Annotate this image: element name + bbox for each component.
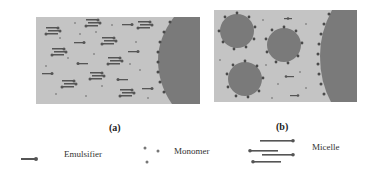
legend-emulsifier-label: Emulsifier (64, 149, 102, 159)
legend-micelle-label: Micelle (312, 142, 340, 152)
panel-b (214, 10, 357, 102)
caption-a: (a) (109, 122, 121, 133)
micelle-icon (248, 139, 295, 164)
legend-monomer-label: Monomer (174, 146, 210, 156)
monomer-icon (144, 147, 160, 164)
caption-b: (b) (276, 121, 288, 132)
panel-a (36, 17, 200, 104)
emulsifier-icon (21, 157, 38, 161)
